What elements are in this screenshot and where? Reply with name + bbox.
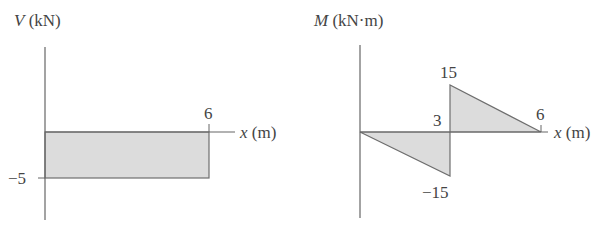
shear-tick-label-neg5: −5 [8,170,26,187]
shear-y-var: V [14,11,24,30]
diagram-canvas [0,0,602,237]
shear-x-unit: (m) [252,123,277,142]
moment-x-unit: (m) [566,123,591,142]
shear-y-unit: (kN) [29,11,61,30]
moment-tick-label-3: 3 [433,112,442,129]
moment-negative-area [360,132,450,176]
moment-x-axis-label: x (m) [554,124,590,141]
shear-y-axis-label: V (kN) [14,12,61,29]
moment-y-unit: (kN·m) [332,11,383,30]
moment-positive-area [450,85,541,132]
shear-x-axis-label: x (m) [240,124,276,141]
moment-tick-label-6: 6 [536,106,545,123]
shear-diagram [38,47,235,220]
moment-x-var: x [554,123,562,142]
moment-y-var: M [314,11,328,30]
shear-area [45,132,209,178]
moment-peak-positive: 15 [440,64,457,81]
shear-tick-label-6: 6 [204,105,213,122]
moment-y-axis-label: M (kN·m) [314,12,383,29]
shear-x-var: x [240,123,248,142]
moment-peak-negative: −15 [422,184,449,201]
